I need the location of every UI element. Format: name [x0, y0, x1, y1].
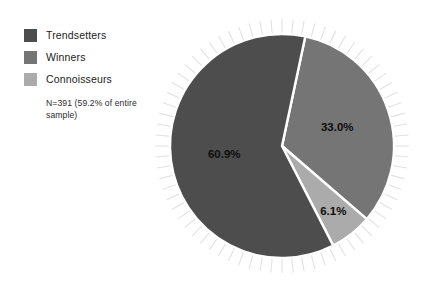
sunburst-ray	[192, 214, 214, 236]
sunburst-ray	[185, 64, 209, 84]
sunburst-ray	[375, 113, 405, 121]
legend-item-trendsetters: Trendsetters	[24, 24, 174, 46]
legend-label-trendsetters: Trendsetters	[46, 30, 106, 41]
pie-slice-winners[interactable]	[282, 36, 394, 219]
pie-slice-trendsetters[interactable]	[170, 34, 333, 258]
sunburst-ray	[323, 31, 336, 59]
sunburst-ray	[271, 19, 274, 50]
sunburst-ray	[163, 179, 192, 190]
sunburst-ray	[350, 214, 372, 236]
legend-swatch-trendsetters	[24, 29, 37, 42]
sunburst-ray	[299, 241, 304, 272]
sunburst-ray	[228, 31, 241, 59]
legend-label-winners: Winners	[46, 52, 86, 63]
sunburst-ray	[299, 21, 304, 52]
sunburst-ray	[155, 135, 186, 138]
sunburst-ray	[337, 42, 355, 67]
slice-value-label-connoisseurs: 6.1%	[320, 205, 346, 217]
sunburst-ray	[377, 124, 408, 129]
sunburst-ray	[361, 73, 386, 91]
sunburst-ray	[178, 73, 203, 91]
sunburst-ray	[200, 49, 220, 73]
pie-slice-connoisseurs[interactable]	[282, 146, 367, 246]
sunburst-ray	[155, 154, 186, 157]
sunburst-ray	[209, 225, 227, 250]
sunburst-ray	[185, 208, 209, 228]
sunburst-ray	[350, 56, 372, 78]
sunburst-ray	[365, 194, 392, 210]
sunburst-ray	[249, 239, 257, 269]
sunburst-ray	[271, 242, 274, 273]
sunburst-ray	[167, 187, 195, 200]
sunburst-ray	[219, 229, 235, 256]
sunburst-ray	[290, 242, 293, 273]
pie-slices	[170, 34, 394, 258]
chart-legend: Trendsetters Winners Connoisseurs N=391 …	[24, 24, 174, 122]
slice-value-label-winners: 33.0%	[321, 121, 354, 133]
sunburst-ray	[307, 239, 315, 269]
sunburst-ray	[356, 208, 380, 228]
legend-swatch-winners	[24, 51, 37, 64]
legend-label-connoisseurs: Connoisseurs	[46, 74, 112, 85]
sunburst-ray	[157, 124, 188, 129]
legend-item-connoisseurs: Connoisseurs	[24, 68, 174, 90]
sunburst-ray	[375, 171, 405, 179]
sunburst-ray	[172, 194, 199, 210]
sunburst-ray	[330, 36, 346, 63]
sunburst-ray	[228, 233, 241, 261]
sunburst-ray	[378, 154, 409, 157]
sunburst-ray	[200, 220, 220, 244]
sunburst-ray	[369, 92, 397, 105]
sunburst-ray	[159, 171, 189, 179]
sunburst-ray	[365, 83, 392, 99]
sunburst-ray	[378, 135, 409, 138]
legend-swatch-connoisseurs	[24, 73, 37, 86]
sample-size-note: N=391 (59.2% of entire sample)	[46, 97, 154, 122]
sunburst-ray	[260, 241, 265, 272]
sunburst-ray	[344, 49, 364, 73]
sunburst-ray	[260, 21, 265, 52]
sunburst-ray	[369, 187, 397, 200]
sunburst-ray	[172, 83, 199, 99]
sunburst-ray	[249, 23, 257, 53]
sunburst-ray	[192, 56, 214, 78]
pie-slice-labels: 33.0%6.1%60.9%	[208, 121, 354, 217]
sunburst-ray	[372, 179, 401, 190]
sunburst-ray	[377, 163, 408, 168]
legend-item-winners: Winners	[24, 46, 174, 68]
sunburst-ray	[178, 201, 203, 219]
sunburst-rays	[155, 19, 409, 273]
sunburst-ray	[209, 42, 227, 67]
sunburst-ray	[361, 201, 386, 219]
sunburst-ray	[315, 236, 326, 265]
slice-value-label-trendsetters: 60.9%	[208, 148, 241, 160]
sunburst-ray	[323, 233, 336, 261]
sunburst-ray	[330, 229, 346, 256]
sunburst-ray	[344, 220, 364, 244]
sunburst-ray	[337, 225, 355, 250]
sunburst-ray	[356, 64, 380, 84]
sunburst-ray	[219, 36, 235, 63]
pie-chart-figure: Trendsetters Winners Connoisseurs N=391 …	[0, 0, 426, 283]
sunburst-ray	[239, 27, 250, 56]
sunburst-ray	[239, 236, 250, 265]
sunburst-ray	[157, 163, 188, 168]
sunburst-ray	[372, 103, 401, 114]
sunburst-ray	[290, 19, 293, 50]
sunburst-ray	[315, 27, 326, 56]
sunburst-ray	[307, 23, 315, 53]
